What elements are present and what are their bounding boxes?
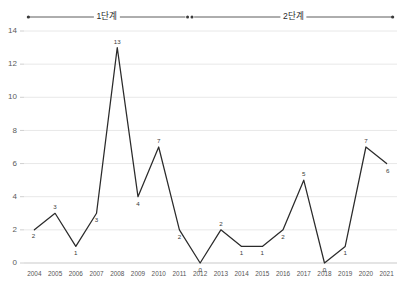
xtick-label-2021: 2021 bbox=[380, 270, 395, 277]
ytick-label-8: 8 bbox=[13, 126, 18, 135]
phase-start-cap bbox=[27, 15, 30, 18]
chart-canvas: 0246810121420042005200620072008200920102… bbox=[0, 0, 410, 292]
xtick-label-2009: 2009 bbox=[131, 270, 146, 277]
point-label-2013: 2 bbox=[219, 220, 223, 227]
xtick-label-2016: 2016 bbox=[276, 270, 291, 277]
point-label-2014: 1 bbox=[240, 249, 244, 256]
series-line bbox=[34, 48, 386, 263]
xtick-label-2007: 2007 bbox=[89, 270, 104, 277]
point-label-2006: 1 bbox=[74, 249, 78, 256]
xtick-label-2015: 2015 bbox=[255, 270, 270, 277]
point-label-2011: 2 bbox=[178, 233, 182, 240]
xtick-label-2006: 2006 bbox=[69, 270, 84, 277]
point-label-2009: 4 bbox=[136, 200, 140, 207]
point-label-2007: 3 bbox=[95, 216, 99, 223]
phase-divider-dot-right bbox=[190, 16, 193, 19]
xtick-label-2017: 2017 bbox=[297, 270, 312, 277]
ytick-label-10: 10 bbox=[8, 92, 17, 101]
ytick-label-6: 6 bbox=[13, 159, 18, 168]
point-label-2010: 7 bbox=[157, 137, 161, 144]
point-label-2021: 6 bbox=[386, 167, 390, 174]
line-chart: 0246810121420042005200620072008200920102… bbox=[0, 0, 410, 292]
point-label-2015: 1 bbox=[261, 249, 265, 256]
phase-label-1: 1단계 bbox=[96, 10, 117, 21]
xtick-label-2005: 2005 bbox=[48, 270, 63, 277]
point-label-2017: 5 bbox=[302, 170, 306, 177]
point-label-2005: 3 bbox=[53, 203, 57, 210]
xtick-label-2020: 2020 bbox=[359, 270, 374, 277]
xtick-label-2011: 2011 bbox=[173, 270, 187, 277]
ytick-label-14: 14 bbox=[8, 26, 17, 35]
ytick-label-0: 0 bbox=[13, 258, 18, 267]
point-label-2018: 0 bbox=[323, 266, 327, 273]
point-label-2020: 7 bbox=[364, 137, 368, 144]
xtick-label-2014: 2014 bbox=[234, 270, 249, 277]
point-label-2004: 2 bbox=[32, 232, 36, 239]
ytick-label-12: 12 bbox=[8, 59, 17, 68]
phase-divider-dot-left bbox=[186, 16, 189, 19]
ytick-label-2: 2 bbox=[13, 225, 18, 234]
xtick-label-2010: 2010 bbox=[152, 270, 167, 277]
point-label-2019: 1 bbox=[343, 249, 347, 256]
phase-end-cap bbox=[391, 15, 394, 18]
xtick-label-2019: 2019 bbox=[338, 270, 353, 277]
xtick-label-2008: 2008 bbox=[110, 270, 125, 277]
xtick-label-2004: 2004 bbox=[27, 270, 42, 277]
phase-label-2: 2단계 bbox=[283, 10, 304, 21]
point-label-2012: 0 bbox=[198, 266, 202, 273]
point-label-2016: 2 bbox=[281, 233, 285, 240]
ytick-label-4: 4 bbox=[13, 192, 18, 201]
point-label-2008: 13 bbox=[114, 38, 121, 45]
xtick-label-2013: 2013 bbox=[214, 270, 229, 277]
